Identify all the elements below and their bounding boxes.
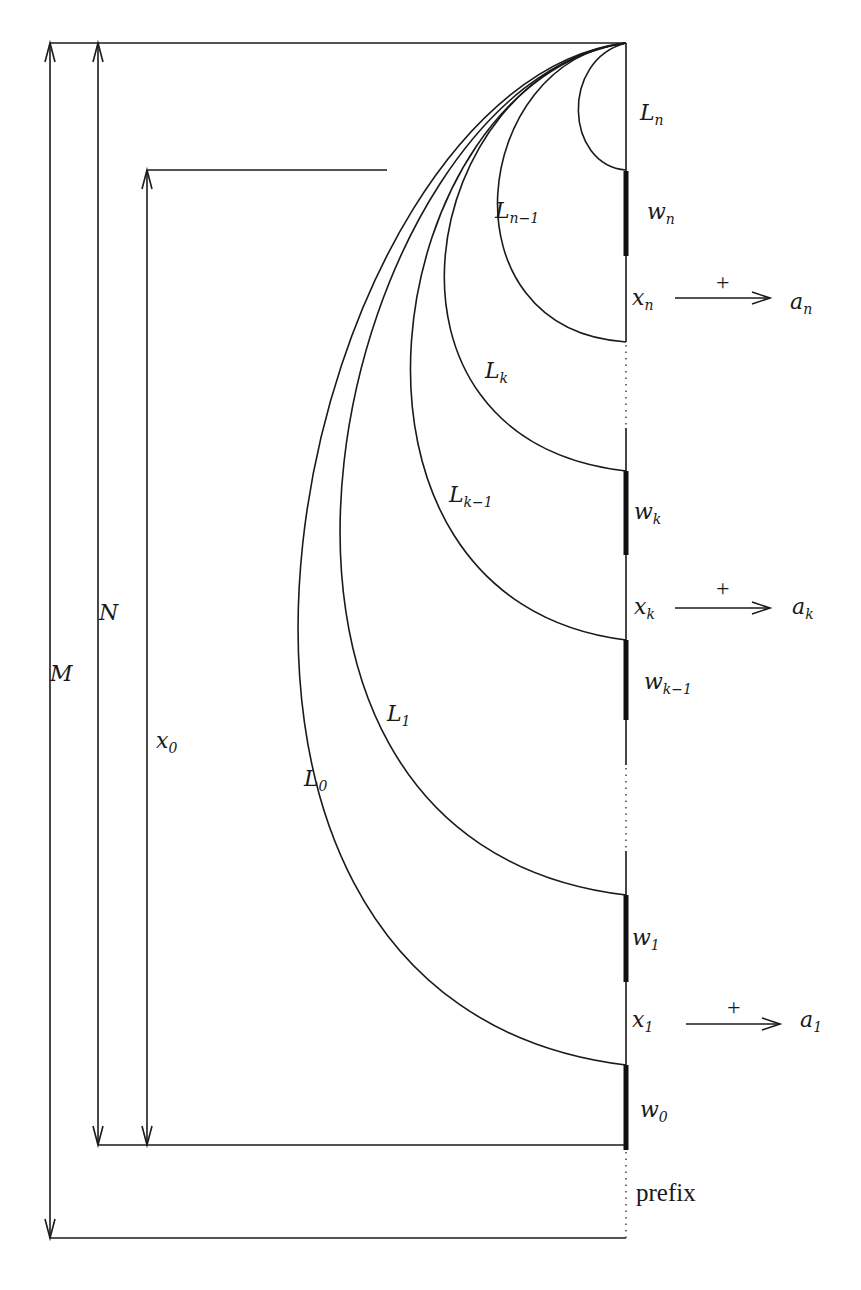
plus-1: + — [727, 994, 741, 1020]
label-a-1: a1 — [800, 1007, 822, 1035]
curve-L-k — [444, 43, 626, 471]
label-L-0: L0 — [303, 766, 328, 794]
x0-dimension-arrow — [142, 170, 152, 1145]
label-w-n: wn — [647, 199, 675, 227]
label-w-1: w1 — [632, 925, 660, 953]
label-w-k: wk — [634, 499, 661, 527]
curve-L-0 — [298, 43, 626, 1065]
M-dimension-arrow — [45, 43, 55, 1238]
label-x-k: xk — [634, 594, 655, 622]
label-w-k1: wk−1 — [644, 669, 692, 697]
N-dimension-arrow — [93, 43, 103, 1145]
label-prefix: prefix — [636, 1179, 696, 1206]
plus-k: + — [716, 575, 730, 601]
label-a-k: ak — [792, 594, 814, 622]
label-L-k1: Lk−1 — [448, 482, 493, 510]
arrow-k — [675, 602, 770, 614]
label-N: N — [98, 600, 119, 625]
label-L-n1: Ln−1 — [494, 198, 539, 226]
diagram-canvas: M N x0 Ln Ln−1 Lk Lk−1 L1 L0 wn wk wk−1 … — [0, 0, 861, 1290]
label-L-n: Ln — [639, 100, 664, 128]
label-M: M — [49, 661, 73, 686]
label-L-k: Lk — [484, 358, 508, 386]
plus-n: + — [716, 269, 730, 295]
label-x0: x0 — [156, 728, 177, 756]
curve-L-n — [578, 43, 626, 170]
label-x-n: xn — [632, 285, 653, 313]
label-x-1: x1 — [632, 1007, 653, 1035]
label-L-1: L1 — [386, 701, 411, 729]
label-a-n: an — [790, 289, 812, 317]
curve-L-k1 — [410, 43, 626, 640]
label-w-0: w0 — [640, 1097, 668, 1125]
curve-L-n1 — [498, 43, 626, 342]
